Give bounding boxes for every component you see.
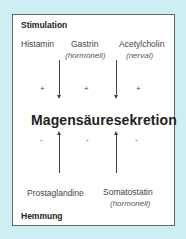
arrow-line-prostaglandine [59,135,60,173]
inhibition-heading: Hemmung [21,211,63,221]
arrow-down-icon [57,95,61,99]
minus-sign: - [86,135,89,144]
label-gastrin: Gastrin [71,39,98,49]
minus-sign: - [40,135,43,144]
center-label: Magensäuresekretion [31,112,177,128]
sub-acetylcholin: (nerval) [126,51,153,60]
label-acetylcholin: Acetylcholin [119,39,164,49]
label-histamin: Histamin [21,39,54,49]
arrow-down-icon [114,95,118,99]
label-somatostatin: Somatostatin [103,187,153,197]
plus-sign: + [136,84,141,93]
plus-sign: + [40,84,45,93]
minus-sign: - [135,135,138,144]
label-prostaglandine: Prostaglandine [27,188,84,198]
sub-gastrin: (hormonell) [65,51,105,60]
arrow-line-gastrin [59,60,60,95]
stimulation-heading: Stimulation [21,20,67,30]
plus-sign: + [84,84,89,93]
sub-somatostatin: (hormonell) [110,199,150,208]
arrow-line-somatostatin [116,135,117,173]
arrow-line-acetylcholin [116,60,117,95]
